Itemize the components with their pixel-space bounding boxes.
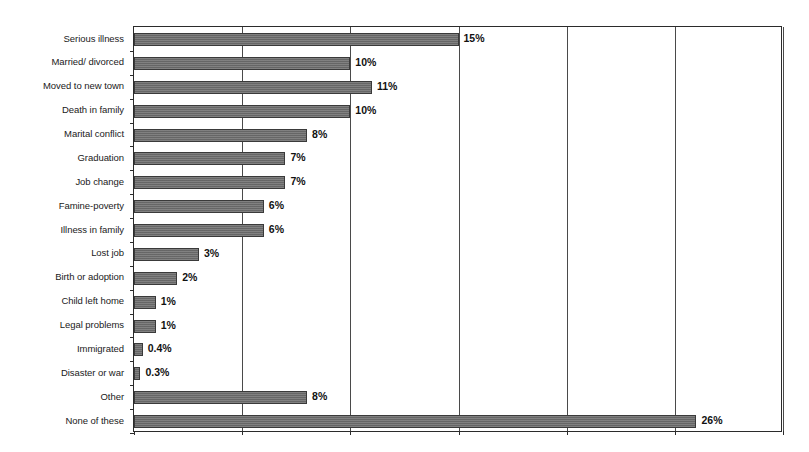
category-label: Married/ divorced (0, 57, 129, 67)
bar (134, 320, 156, 333)
bar-value-label: 1% (161, 318, 176, 333)
bar (134, 248, 199, 261)
bar-value-label: 7% (290, 174, 305, 189)
category-axis: Serious illnessMarried/ divorcedMoved to… (0, 26, 129, 432)
bar (134, 272, 177, 285)
bar (134, 152, 285, 165)
bar-row: 15% (134, 27, 783, 52)
bar (134, 296, 156, 309)
bar-value-label: 0.4% (148, 341, 172, 356)
y-tick (130, 75, 134, 76)
bar-row: 0.4% (134, 337, 783, 362)
category-label: Job change (0, 177, 129, 187)
bar (134, 176, 285, 189)
bars-layer: 15%10%11%10%8%7%7%6%6%3%2%1%1%0.4%0.3%8%… (134, 27, 781, 431)
y-tick (130, 385, 134, 386)
y-tick (130, 170, 134, 171)
bar (134, 343, 143, 356)
bar-value-label: 8% (312, 127, 327, 142)
bar-value-label: 6% (269, 222, 284, 237)
bar (134, 415, 696, 428)
bar (134, 367, 140, 380)
bar-row: 7% (134, 146, 783, 171)
bar-value-label: 11% (377, 79, 397, 94)
bar-row: 2% (134, 266, 783, 291)
bar-row: 8% (134, 385, 783, 410)
y-tick (130, 266, 134, 267)
y-tick (130, 218, 134, 219)
x-tick-5 (242, 431, 243, 435)
bar-row: 0.3% (134, 361, 783, 386)
bar-row: 6% (134, 218, 783, 243)
bar-row: 11% (134, 75, 783, 100)
bar-value-label: 0.3% (145, 365, 169, 380)
bar (134, 33, 459, 46)
bar-value-label: 6% (269, 198, 284, 213)
y-tick (130, 242, 134, 243)
bar-row: 10% (134, 51, 783, 76)
y-tick (130, 146, 134, 147)
x-tick-10 (350, 431, 351, 435)
plot-area: 15%10%11%10%8%7%7%6%6%3%2%1%1%0.4%0.3%8%… (133, 26, 782, 432)
category-label: Other (0, 392, 129, 402)
y-tick (130, 194, 134, 195)
bar (134, 129, 307, 142)
bar-value-label: 1% (161, 294, 176, 309)
bar (134, 105, 350, 118)
bar-chart: Serious illnessMarried/ divorcedMoved to… (0, 0, 809, 452)
x-tick-0 (134, 431, 135, 435)
bar-value-label: 26% (701, 413, 722, 428)
bar-value-label: 7% (290, 150, 305, 165)
y-tick (130, 361, 134, 362)
category-label: Lost job (0, 248, 129, 258)
bar-row: 1% (134, 290, 783, 315)
category-label: Graduation (0, 153, 129, 163)
y-tick (130, 51, 134, 52)
category-label: Immigrated (0, 344, 129, 354)
y-tick (130, 99, 134, 100)
y-tick (130, 290, 134, 291)
category-label: Child left home (0, 296, 129, 306)
bar (134, 57, 350, 70)
x-tick-20 (567, 431, 568, 435)
y-tick (130, 433, 134, 434)
bar-value-label: 10% (355, 103, 376, 118)
bar (134, 200, 264, 213)
bar-value-label: 10% (355, 55, 376, 70)
bar-row: 6% (134, 194, 783, 219)
bar-value-label: 8% (312, 389, 327, 404)
bar-row: 8% (134, 123, 783, 148)
x-tick-15 (459, 431, 460, 435)
x-tick-30 (783, 431, 784, 435)
y-tick (130, 123, 134, 124)
category-label: Legal problems (0, 320, 129, 330)
category-label: None of these (0, 416, 129, 426)
category-label: Disaster or war (0, 368, 129, 378)
bar-row: 10% (134, 99, 783, 124)
y-tick (130, 314, 134, 315)
bar-row: 3% (134, 242, 783, 267)
category-label: Illness in family (0, 225, 129, 235)
category-label: Birth or adoption (0, 272, 129, 282)
bar-value-label: 2% (182, 270, 197, 285)
gridline-30 (783, 27, 784, 431)
category-label: Moved to new town (0, 81, 129, 91)
bar (134, 391, 307, 404)
bar (134, 224, 264, 237)
bar-row: 1% (134, 314, 783, 339)
category-label: Death in family (0, 105, 129, 115)
x-tick-25 (675, 431, 676, 435)
category-label: Marital conflict (0, 129, 129, 139)
y-tick (130, 409, 134, 410)
category-label: Famine-poverty (0, 201, 129, 211)
bar (134, 81, 372, 94)
category-label: Serious illness (0, 34, 129, 44)
bar-value-label: 3% (204, 246, 219, 261)
y-tick (130, 337, 134, 338)
bar-row: 7% (134, 170, 783, 195)
bar-value-label: 15% (464, 31, 485, 46)
